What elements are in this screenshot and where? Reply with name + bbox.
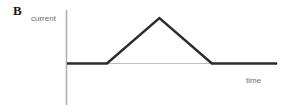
current-waveform-trace <box>67 18 277 64</box>
figure-panel-b: B current time <box>0 0 285 112</box>
plot-area <box>0 0 285 112</box>
x-axis-label: time <box>246 76 261 86</box>
